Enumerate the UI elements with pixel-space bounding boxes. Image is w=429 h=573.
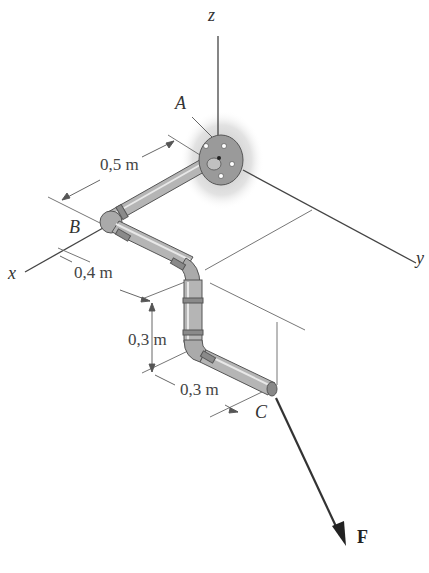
pipe-diagram [0,0,429,573]
y-axis [243,170,416,263]
dim-vertical: 0,3 m [128,330,167,350]
x-axis-label: x [8,263,16,284]
force-label: F [357,527,368,548]
z-axis-label: z [208,5,215,26]
point-c-label: C [255,402,267,423]
dim-ab: 0,5 m [100,155,139,175]
dim-b-bend: 0,4 m [74,263,113,283]
point-b-label: B [69,217,80,238]
wall-flange [199,135,243,185]
y-axis-label: y [416,248,424,269]
dim-last: 0,3 m [180,380,219,400]
force-arrow [276,398,346,546]
point-a-label: A [175,93,186,114]
